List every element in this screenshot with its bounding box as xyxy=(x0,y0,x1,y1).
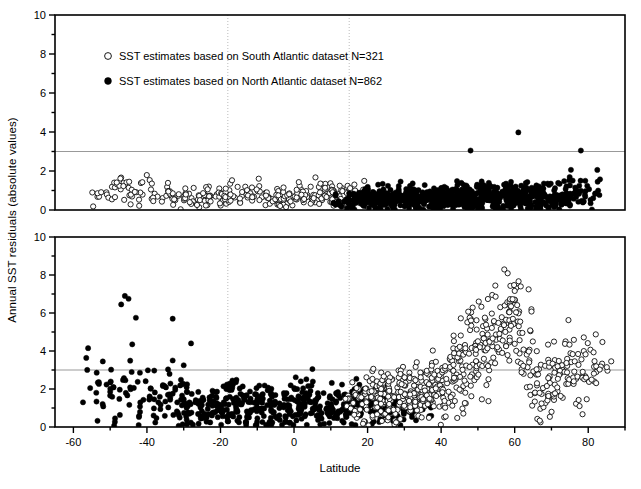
data-point-outlier xyxy=(516,130,521,135)
x-tick-label: 60 xyxy=(509,436,521,448)
data-point xyxy=(425,402,430,407)
data-point xyxy=(293,375,298,380)
data-point xyxy=(255,416,260,421)
data-point xyxy=(468,318,473,323)
data-point xyxy=(495,345,500,350)
data-point xyxy=(187,411,192,416)
data-point xyxy=(162,413,167,418)
data-point xyxy=(131,385,136,390)
data-point xyxy=(493,283,498,288)
data-point xyxy=(137,203,142,208)
data-point xyxy=(491,355,496,360)
data-point xyxy=(369,394,374,399)
sst-residuals-figure: Annual SST residuals (absolute values) 0… xyxy=(0,0,641,489)
data-point xyxy=(512,341,517,346)
data-point xyxy=(303,412,308,417)
data-point xyxy=(235,184,240,189)
data-point xyxy=(591,371,596,376)
data-point xyxy=(137,404,142,409)
y-axis: 0246810 xyxy=(34,231,55,433)
series-south-atlantic xyxy=(343,267,614,428)
data-point xyxy=(302,196,307,201)
data-point xyxy=(288,199,293,204)
data-point xyxy=(127,179,132,184)
data-point xyxy=(136,197,141,202)
data-point xyxy=(268,392,273,397)
data-point xyxy=(456,194,461,199)
data-point xyxy=(308,184,313,189)
data-point xyxy=(597,367,602,372)
data-point xyxy=(571,191,576,196)
data-point xyxy=(157,394,162,399)
data-point xyxy=(316,412,321,417)
data-point xyxy=(275,416,280,421)
data-point xyxy=(148,386,153,391)
data-point xyxy=(452,351,457,356)
data-point xyxy=(117,412,122,417)
data-point xyxy=(111,384,116,389)
data-point xyxy=(496,320,501,325)
data-point xyxy=(386,415,391,420)
data-point xyxy=(125,393,130,398)
data-point xyxy=(534,381,539,386)
data-point xyxy=(308,388,313,393)
data-point xyxy=(333,202,338,207)
data-point xyxy=(513,310,518,315)
data-point xyxy=(493,294,498,299)
data-point xyxy=(458,316,463,321)
data-point xyxy=(451,362,456,367)
data-point xyxy=(583,194,588,199)
data-point xyxy=(229,178,234,183)
data-point xyxy=(443,405,448,410)
data-point xyxy=(558,201,563,206)
data-point xyxy=(309,400,314,405)
data-point xyxy=(443,364,448,369)
data-point xyxy=(410,181,415,186)
data-point xyxy=(507,358,512,363)
data-point xyxy=(475,339,480,344)
data-point xyxy=(484,196,489,201)
data-point xyxy=(183,192,188,197)
data-point xyxy=(200,415,205,420)
data-point xyxy=(576,397,581,402)
data-point xyxy=(94,370,99,375)
data-point xyxy=(488,183,493,188)
data-point xyxy=(205,187,210,192)
data-point xyxy=(224,382,229,387)
data-point xyxy=(593,332,598,337)
data-points xyxy=(90,130,603,212)
data-point xyxy=(343,396,348,401)
data-point xyxy=(145,368,150,373)
data-point xyxy=(246,415,251,420)
data-point xyxy=(571,196,576,201)
data-point xyxy=(448,395,453,400)
data-point xyxy=(322,185,327,190)
data-point xyxy=(162,383,167,388)
data-point xyxy=(503,329,508,334)
data-point xyxy=(583,352,588,357)
data-point xyxy=(84,355,89,360)
data-point xyxy=(114,180,119,185)
legend-label: SST estimates based on South Atlantic da… xyxy=(119,50,384,62)
y-tick-label: 10 xyxy=(34,231,46,243)
data-point xyxy=(552,370,557,375)
data-point xyxy=(121,183,126,188)
data-point xyxy=(152,368,157,373)
data-point xyxy=(348,204,353,209)
data-point xyxy=(508,179,513,184)
data-point xyxy=(541,181,546,186)
data-point xyxy=(268,415,273,420)
data-point xyxy=(159,199,164,204)
y-tick-label: 6 xyxy=(40,87,46,99)
data-point xyxy=(493,201,498,206)
data-point xyxy=(515,303,520,308)
data-point xyxy=(181,410,186,415)
data-point xyxy=(484,382,489,387)
data-point xyxy=(585,341,590,346)
data-point xyxy=(315,391,320,396)
data-point xyxy=(317,407,322,412)
data-point xyxy=(297,410,302,415)
data-point xyxy=(474,327,479,332)
data-point xyxy=(354,385,359,390)
data-point xyxy=(509,198,514,203)
